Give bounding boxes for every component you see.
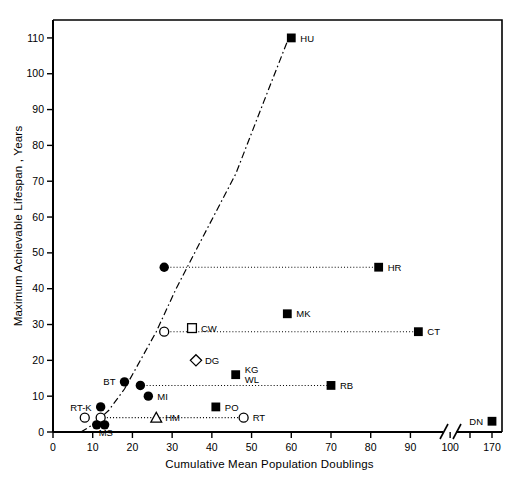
- marker-open-square: [188, 324, 197, 333]
- y-tick-label: 40: [32, 282, 44, 294]
- x-tick-label: 10: [87, 441, 99, 453]
- x-tick-label: 40: [206, 441, 218, 453]
- marker-open-diamond: [190, 355, 201, 366]
- x-tick-label: 80: [365, 441, 377, 453]
- marker-open-circle: [239, 413, 248, 422]
- x-tick-label: 30: [166, 441, 178, 453]
- y-tick-label: 90: [32, 103, 44, 115]
- marker-filled-square: [283, 309, 292, 318]
- plot-frame: [53, 20, 502, 432]
- point-label-hr: HR: [388, 262, 402, 273]
- marker-filled-circle: [96, 402, 105, 411]
- point-label-rt: RT: [253, 412, 266, 423]
- x-tick-label: 0: [50, 441, 56, 453]
- scatter-plot-svg: 0102030405060708090100110010203040506070…: [0, 0, 532, 482]
- y-tick-label: 70: [32, 175, 44, 187]
- point-label-rb: RB: [340, 380, 353, 391]
- point-label-rt-k: RT-K: [70, 402, 92, 413]
- y-tick-label: 110: [27, 32, 44, 44]
- point-label-mk: MK: [296, 308, 311, 319]
- point-label-mi: MI: [157, 391, 168, 402]
- marker-filled-square: [211, 403, 220, 412]
- marker-filled-square: [231, 370, 240, 379]
- marker-open-circle: [160, 327, 169, 336]
- y-tick-label: 10: [32, 390, 44, 402]
- y-tick-label: 80: [32, 139, 44, 151]
- x-tick-label-outlier: 170: [483, 441, 501, 453]
- x-axis-label: Cumulative Mean Population Doublings: [165, 458, 374, 470]
- point-label-bt: BT: [103, 376, 115, 387]
- point-label-dg: DG: [205, 355, 219, 366]
- point-label-hm: HM: [165, 412, 180, 423]
- y-tick-label: 0: [38, 426, 44, 438]
- x-tick-label: 50: [246, 441, 258, 453]
- x-tick-label: 70: [325, 441, 337, 453]
- marker-filled-circle: [100, 420, 109, 429]
- y-tick-label: 60: [32, 211, 44, 223]
- marker-filled-square: [488, 417, 497, 426]
- marker-filled-square: [327, 381, 336, 390]
- point-label-ct: CT: [427, 326, 440, 337]
- marker-filled-circle: [120, 377, 129, 386]
- point-label-hu: HU: [300, 33, 314, 44]
- y-tick-label: 50: [32, 246, 44, 258]
- x-tick-label: 60: [285, 441, 297, 453]
- marker-filled-circle: [144, 391, 153, 400]
- marker-filled-circle: [160, 263, 169, 272]
- y-tick-label: 100: [26, 67, 44, 79]
- chart-figure: 0102030405060708090100110010203040506070…: [0, 0, 532, 482]
- y-tick-label: 30: [32, 318, 44, 330]
- point-label-dn: DN: [469, 416, 483, 427]
- point-label-po: PO: [225, 402, 239, 413]
- marker-filled-square: [414, 327, 423, 336]
- marker-filled-circle: [136, 381, 145, 390]
- point-label-wl: WL: [245, 374, 259, 385]
- x-tick-label: 100: [441, 441, 459, 453]
- point-label-cw: CW: [201, 323, 217, 334]
- y-axis-label: Maximum Achievable Lifespan , Years: [12, 126, 24, 327]
- x-tick-label: 90: [405, 441, 417, 453]
- marker-open-circle: [80, 413, 89, 422]
- x-tick-label: 20: [127, 441, 139, 453]
- marker-filled-square: [374, 263, 383, 272]
- marker-filled-square: [287, 34, 296, 43]
- y-tick-label: 20: [32, 354, 44, 366]
